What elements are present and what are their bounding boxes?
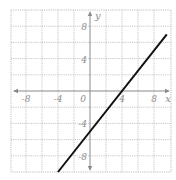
y-tick-label: 8	[81, 22, 87, 32]
x-axis-label: x	[165, 93, 171, 104]
y-axis-arrow-down-icon	[88, 166, 92, 171]
y-axis-arrow-up-icon	[88, 11, 92, 16]
y-tick-label: -4	[78, 119, 87, 129]
y-tick-label: -8	[78, 152, 87, 162]
coordinate-plane-chart: -8-4048 84-4-8 x y	[0, 0, 176, 180]
y-tick-label: 4	[80, 55, 87, 65]
x-tick-label: -4	[54, 94, 63, 104]
axes	[13, 11, 170, 171]
x-tick-label: 8	[151, 94, 157, 104]
y-axis-label: y	[94, 10, 101, 21]
x-axis-arrow-left-icon	[13, 89, 18, 93]
x-tick-label: 0	[80, 94, 86, 104]
x-tick-label: -8	[22, 94, 31, 104]
